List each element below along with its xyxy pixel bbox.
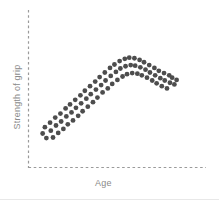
data-point [123,64,128,69]
data-point [148,70,153,75]
data-point [65,122,70,127]
x-axis-label: Age [95,178,112,188]
data-point [108,74,113,79]
data-point [84,96,89,101]
data-point [68,102,73,107]
data-point [122,56,127,61]
data-point [71,118,76,123]
data-point [56,131,61,136]
data-point [170,75,175,80]
data-point [125,72,130,77]
data-point [110,82,115,87]
data-point [174,78,179,83]
data-point [91,100,96,105]
data-point [132,56,137,61]
data-point-group [40,55,179,140]
data-point [142,60,147,65]
data-point [147,63,152,68]
data-point [135,71,140,76]
data-point [64,114,69,119]
data-point [130,71,135,76]
data-point [48,128,53,133]
y-axis-label: Strength of grip [12,49,22,145]
data-point [79,101,84,106]
data-point [100,90,105,95]
data-point [82,88,87,93]
data-point [58,111,63,116]
data-point [88,92,93,97]
data-point [44,136,49,141]
data-point [103,78,108,83]
data-point [74,105,79,110]
data-point [112,62,117,67]
data-point [150,78,155,83]
data-point [97,75,102,80]
plot-canvas [0,0,219,200]
data-point [102,70,107,75]
data-point [80,109,85,114]
data-point [145,75,150,80]
data-point [105,86,110,91]
data-point [159,84,164,89]
scatter-plot-figure: Strength of grip Age [0,0,219,200]
data-point [69,110,74,115]
data-point [152,66,157,71]
data-point [53,115,58,120]
data-point [78,93,83,98]
data-point [118,66,123,71]
data-point [51,135,56,140]
data-point [165,86,170,91]
data-point [158,76,163,81]
data-point [162,78,167,83]
data-point [120,74,125,79]
data-point [63,106,68,111]
data-point [54,123,59,128]
data-point [128,63,133,68]
data-point [108,66,113,71]
data-point [153,73,158,78]
data-point [127,55,132,60]
data-point [172,82,177,87]
data-point [115,78,120,83]
data-point [137,58,142,63]
data-point [93,79,98,84]
data-point [154,81,159,86]
data-point [133,63,138,68]
data-point [156,68,161,73]
data-point [138,65,143,70]
data-point [114,70,119,75]
data-point [40,131,45,136]
data-point [48,120,53,125]
data-point [59,119,64,124]
data-point [61,127,66,132]
data-point [95,95,100,100]
data-point [88,84,93,89]
data-point [168,80,173,85]
data-point [117,59,122,64]
data-point [73,97,78,102]
data-point [76,113,81,118]
data-point [94,87,99,92]
data-point [42,125,47,130]
data-point [162,71,167,76]
data-point [143,67,148,72]
data-point [85,104,90,109]
data-point [99,83,104,88]
data-point [139,73,144,78]
